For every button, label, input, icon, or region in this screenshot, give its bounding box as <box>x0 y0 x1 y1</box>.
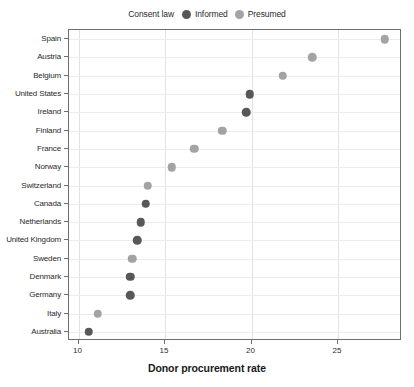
data-point-finland[interactable] <box>218 126 227 135</box>
data-point-canada[interactable] <box>142 200 151 209</box>
x-axis-tick-label-15: 15 <box>160 346 169 355</box>
x-axis-tick <box>164 340 165 344</box>
y-axis-label-finland: Finland <box>36 125 61 134</box>
gridline-horizontal <box>69 277 400 278</box>
gridline-horizontal <box>69 259 400 260</box>
y-axis-label-australia: Australia <box>31 326 61 335</box>
data-point-sweden[interactable] <box>128 254 137 263</box>
legend-title: Consent law <box>128 9 174 19</box>
gridline-horizontal <box>69 57 400 58</box>
gridline-horizontal <box>69 76 400 77</box>
y-axis-label-united-states: United States <box>15 89 61 98</box>
gridline-horizontal <box>69 149 400 150</box>
data-point-australia[interactable] <box>85 328 94 337</box>
y-axis-label-belgium: Belgium <box>33 70 61 79</box>
x-axis-tick <box>78 340 79 344</box>
donor-procurement-scatter-chart: Consent law Informed Presumed SpainAustr… <box>0 0 414 387</box>
legend-label-presumed: Presumed <box>248 9 286 19</box>
y-axis-label-austria: Austria <box>37 52 61 61</box>
data-point-austria[interactable] <box>308 53 317 62</box>
x-axis-tick-label-25: 25 <box>333 346 342 355</box>
y-axis-label-united-kingdom: United Kingdom <box>6 235 61 244</box>
x-axis-title: Donor procurement rate <box>0 362 414 374</box>
gridline-horizontal <box>69 186 400 187</box>
x-axis-tick-label-20: 20 <box>246 346 255 355</box>
y-axis-label-ireland: Ireland <box>38 107 61 116</box>
legend-label-informed: Informed <box>195 9 228 19</box>
gridline-horizontal <box>69 112 400 113</box>
data-point-germany[interactable] <box>126 291 135 300</box>
gridline-horizontal <box>69 295 400 296</box>
gridline-horizontal <box>69 167 400 168</box>
data-point-ireland[interactable] <box>242 108 251 117</box>
gridline-horizontal <box>69 222 400 223</box>
legend-item-presumed[interactable]: Presumed <box>235 9 286 19</box>
y-axis-label-canada: Canada <box>34 198 61 207</box>
gridline-horizontal <box>69 240 400 241</box>
y-axis-label-denmark: Denmark <box>30 271 61 280</box>
data-point-united-states[interactable] <box>246 90 255 99</box>
legend-item-informed[interactable]: Informed <box>182 9 228 19</box>
gridline-horizontal <box>69 94 400 95</box>
data-point-italy[interactable] <box>93 309 102 318</box>
data-point-denmark[interactable] <box>126 273 135 282</box>
y-axis-label-norway: Norway <box>35 162 61 171</box>
y-axis-label-switzerland: Switzerland <box>21 180 61 189</box>
data-point-spain[interactable] <box>380 35 389 44</box>
gridline-horizontal <box>69 39 400 40</box>
y-axis-label-spain: Spain <box>41 34 61 43</box>
y-axis-label-sweden: Sweden <box>33 253 61 262</box>
plot-area <box>68 29 401 340</box>
y-axis-label-germany: Germany <box>29 290 61 299</box>
data-point-norway[interactable] <box>168 163 177 172</box>
gridline-horizontal <box>69 204 400 205</box>
legend-swatch-informed <box>182 10 191 19</box>
data-point-france[interactable] <box>190 145 199 154</box>
gridline-horizontal <box>69 131 400 132</box>
data-point-united-kingdom[interactable] <box>133 236 142 245</box>
y-axis-label-netherlands: Netherlands <box>20 217 62 226</box>
gridline-horizontal <box>69 314 400 315</box>
y-axis-label-italy: Italy <box>47 308 61 317</box>
x-axis-tick <box>251 340 252 344</box>
y-axis-label-france: France <box>37 143 61 152</box>
legend-swatch-presumed <box>235 10 244 19</box>
chart-legend: Consent law Informed Presumed <box>0 9 414 19</box>
data-point-belgium[interactable] <box>278 71 287 80</box>
data-point-netherlands[interactable] <box>137 218 146 227</box>
x-axis-tick-label-10: 10 <box>73 346 82 355</box>
data-point-switzerland[interactable] <box>143 181 152 190</box>
x-axis-tick <box>337 340 338 344</box>
gridline-horizontal <box>69 332 400 333</box>
